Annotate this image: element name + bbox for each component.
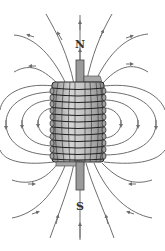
field-lines-left-loops — [0, 85, 54, 163]
south-pole-label: S — [76, 200, 84, 213]
field-lines-right-loops — [104, 85, 165, 163]
solenoid-coil — [50, 82, 106, 162]
solenoid-field-diagram: N S — [0, 0, 165, 251]
north-pole-label: N — [75, 38, 85, 51]
